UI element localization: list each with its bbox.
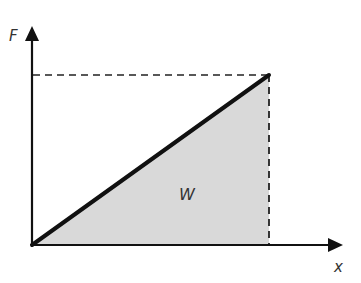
- work-label: W: [179, 185, 196, 204]
- x-axis-arrow-icon: [328, 238, 343, 252]
- y-axis-arrow-icon: [25, 26, 39, 41]
- y-axis-label: F: [9, 27, 18, 45]
- x-axis-label: x: [333, 258, 343, 276]
- work-diagram: F x W: [0, 0, 361, 283]
